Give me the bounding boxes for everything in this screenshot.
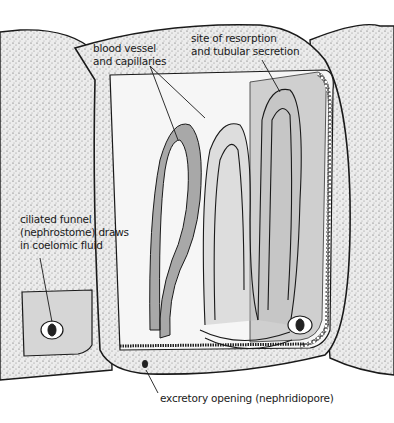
label-line: and capillaries (93, 55, 166, 68)
label-line: blood vessel (93, 42, 166, 55)
ciliated-funnel-right (288, 316, 312, 334)
label-ciliated-funnel: ciliated funnel (nephrostome) draws in c… (20, 213, 129, 252)
label-line: ciliated funnel (20, 213, 129, 226)
label-line: (nephrostome) draws (20, 226, 129, 239)
diagram-drawing (0, 0, 394, 423)
label-line: and tubular secretion (191, 45, 299, 58)
label-line: in coelomic fluid (20, 239, 129, 252)
ciliated-funnel-left (41, 321, 63, 339)
nephridium-diagram: blood vessel and capillaries site of res… (0, 0, 394, 423)
nephridiopore (142, 360, 148, 368)
label-nephridiopore: excretory opening (nephridiopore) (160, 392, 334, 405)
label-resorption: site of resorption and tubular secretion (191, 32, 299, 58)
label-line: site of resorption (191, 32, 299, 45)
label-blood-vessel: blood vessel and capillaries (93, 42, 166, 68)
